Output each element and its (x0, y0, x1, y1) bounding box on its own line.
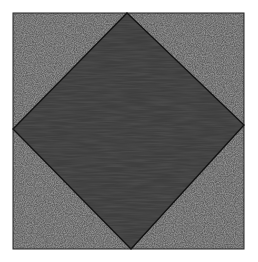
geometric-figure (0, 0, 258, 262)
